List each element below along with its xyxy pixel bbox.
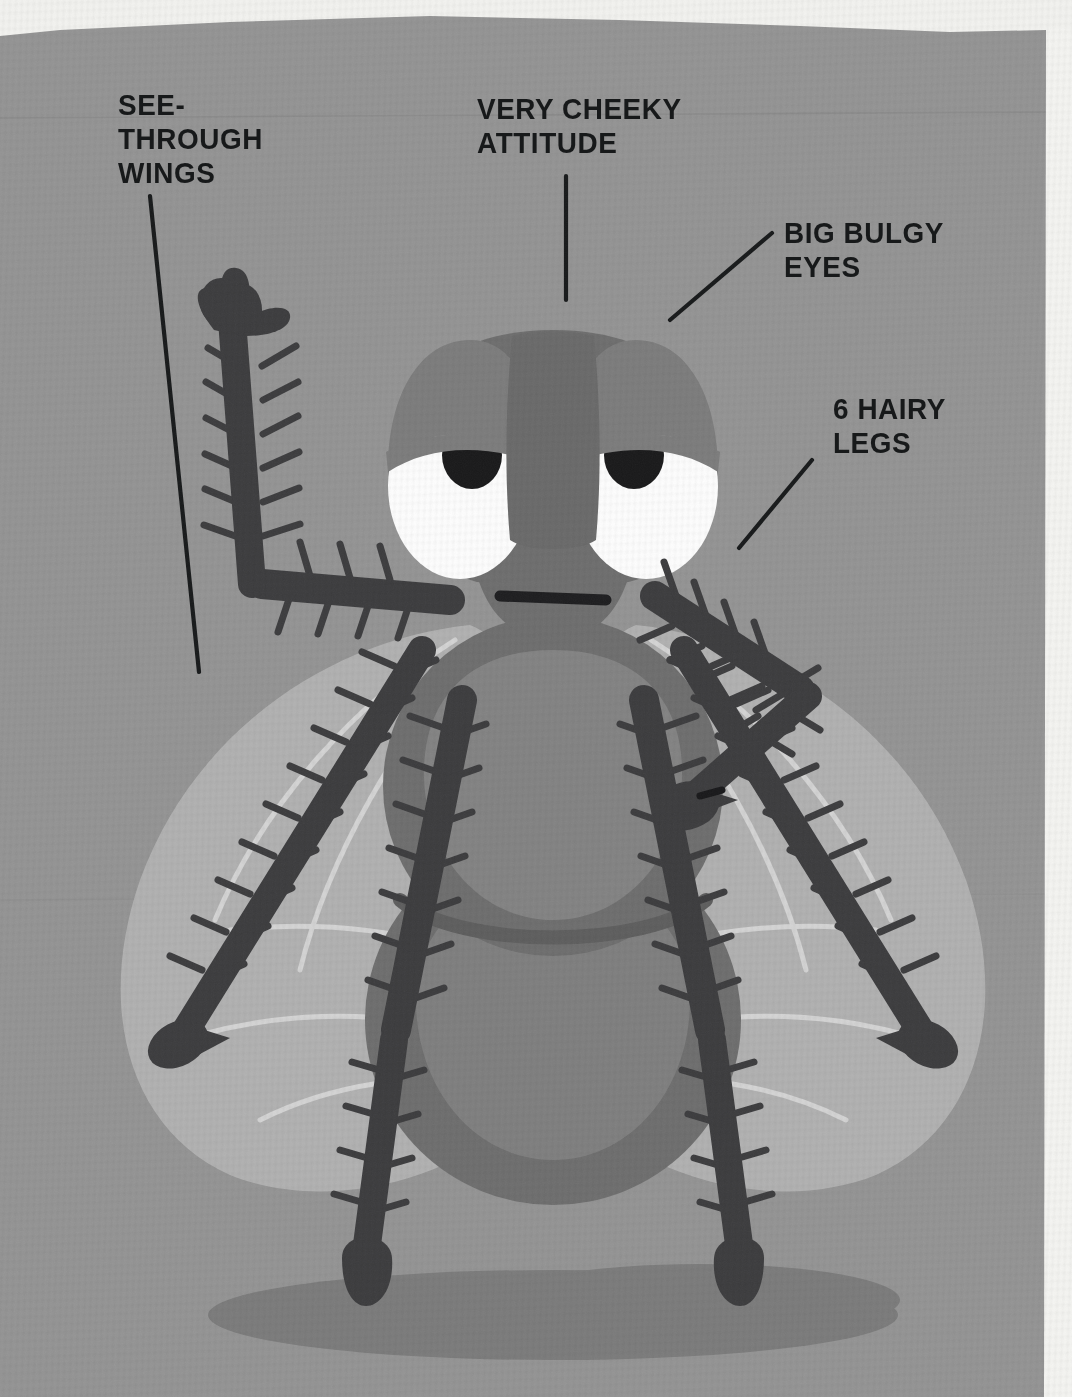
fly-anatomy-poster: SEE- THROUGH WINGS VERY CHEEKY ATTITUDE …	[0, 0, 1072, 1397]
paper-noise	[0, 0, 1072, 1397]
callout-label-big-bulgy-eyes: BIG BULGY EYES	[784, 216, 944, 284]
fly-illustration	[0, 0, 1072, 1397]
callout-label-see-through-wings: SEE- THROUGH WINGS	[118, 88, 263, 191]
callout-label-very-cheeky-attitude: VERY CHEEKY ATTITUDE	[477, 92, 682, 160]
callout-label-6-hairy-legs: 6 HAIRY LEGS	[833, 392, 946, 460]
